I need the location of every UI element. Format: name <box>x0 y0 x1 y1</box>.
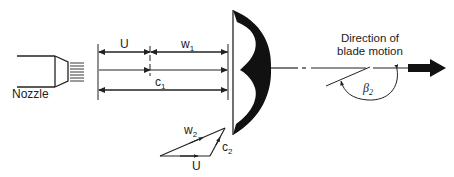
u-bottom-label: U <box>192 159 201 173</box>
w2-label: w2 <box>183 123 198 139</box>
nozzle <box>17 56 68 87</box>
c2-label: c2 <box>222 140 233 156</box>
direction-label-line1: Direction of <box>341 32 400 44</box>
turbine-diagram: Nozzle U w1 c1 Direction of blade mo <box>0 0 454 177</box>
dimension-lines <box>98 44 228 100</box>
jet-lines <box>70 63 84 81</box>
direction-label-line2: blade motion <box>337 45 403 57</box>
u-top-label: U <box>120 37 129 51</box>
turbine-blade <box>233 10 271 135</box>
blade-motion-arrow <box>408 59 446 77</box>
c1-label: c1 <box>155 75 166 91</box>
beta2-label: β2 <box>362 81 373 97</box>
w1-label: w1 <box>180 37 195 53</box>
nozzle-label: Nozzle <box>12 87 49 101</box>
